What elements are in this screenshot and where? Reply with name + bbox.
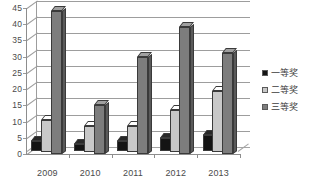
bar-2013-series3 xyxy=(222,53,233,154)
legend-swatch-icon xyxy=(262,104,268,110)
chart-legend: 一等奖二等奖三等奖 xyxy=(262,64,317,115)
bar-face xyxy=(222,53,233,154)
legend-item-2[interactable]: 二等奖 xyxy=(262,81,317,98)
legend-swatch-icon xyxy=(262,87,268,93)
x-tick-mark xyxy=(69,154,70,158)
x-axis-label-2009: 2009 xyxy=(29,168,65,178)
bar-side xyxy=(105,102,109,154)
x-axis-label-2010: 2010 xyxy=(72,168,108,178)
x-tick-mark xyxy=(112,154,113,158)
x-tick-mark xyxy=(197,154,198,158)
bar-face xyxy=(94,105,105,154)
legend-label: 二等奖 xyxy=(271,83,298,96)
x-axis-label-2012: 2012 xyxy=(158,168,194,178)
bars-layer xyxy=(0,0,250,170)
bar-2011-series3 xyxy=(137,57,148,154)
award-statistics-column-chart: 051015202530354045 20092010201120122013 … xyxy=(0,0,317,195)
bar-side xyxy=(233,51,237,154)
x-tick-mark xyxy=(240,154,241,158)
bar-2009-series3 xyxy=(51,11,62,154)
bar-2012-series3 xyxy=(179,27,190,154)
legend-label: 一等奖 xyxy=(271,66,298,79)
legend-label: 三等奖 xyxy=(271,100,298,113)
x-tick-mark xyxy=(154,154,155,158)
bar-side xyxy=(148,54,152,154)
bar-side xyxy=(190,25,194,154)
legend-item-3[interactable]: 三等奖 xyxy=(262,98,317,115)
x-axis-label-2011: 2011 xyxy=(115,168,151,178)
x-axis-labels: 20092010201120122013 xyxy=(0,168,250,184)
legend-item-1[interactable]: 一等奖 xyxy=(262,64,317,81)
legend-swatch-icon xyxy=(262,70,268,76)
plot-area: 051015202530354045 20092010201120122013 xyxy=(0,0,250,170)
bar-2010-series3 xyxy=(94,105,105,154)
x-axis-label-2013: 2013 xyxy=(201,168,237,178)
bar-face xyxy=(179,27,190,154)
bar-side xyxy=(62,8,66,154)
bar-face xyxy=(51,11,62,154)
bar-face xyxy=(137,57,148,154)
